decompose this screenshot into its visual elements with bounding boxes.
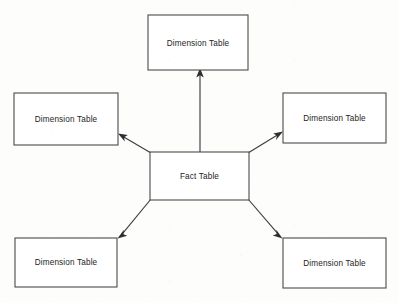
edge-fact-to-dimension-bottom-right <box>248 199 283 239</box>
edge-line-left <box>123 136 152 153</box>
node-fact-center[interactable]: Fact Table <box>150 152 249 200</box>
edge-fact-to-dimension-right <box>248 132 283 154</box>
node-dimension-top[interactable]: Dimension Table <box>148 15 248 70</box>
diagram-svg-surface: Dimension Table Dimension Table Dimensio… <box>0 0 398 303</box>
node-dimension-bottom-left[interactable]: Dimension Table <box>15 238 117 287</box>
node-dimension-bottom-right[interactable]: Dimension Table <box>283 238 386 288</box>
edge-fact-to-dimension-bottom-left <box>118 199 152 239</box>
dimension-left-label: Dimension Table <box>35 115 98 124</box>
node-dimension-left[interactable]: Dimension Table <box>14 93 118 145</box>
dimension-bottom-left-label: Dimension Table <box>35 258 98 267</box>
node-dimension-right[interactable]: Dimension Table <box>283 93 386 143</box>
dimension-top-label: Dimension Table <box>167 39 230 48</box>
edge-fact-to-dimension-left <box>118 134 151 154</box>
star-schema-diagram: Dimension Table Dimension Table Dimensio… <box>0 0 398 303</box>
fact-table-label: Fact Table <box>180 172 219 181</box>
arrowhead-down-right-icon <box>273 230 283 239</box>
arrowhead-up-left-icon <box>118 134 128 142</box>
arrowhead-down-left-icon <box>118 230 128 239</box>
arrowhead-up-right-icon <box>273 132 283 140</box>
edge-fact-to-dimension-top <box>196 68 204 152</box>
dimension-bottom-right-label: Dimension Table <box>303 259 366 268</box>
edge-line-bottom-left <box>122 199 151 234</box>
dimension-right-label: Dimension Table <box>303 114 366 123</box>
edge-line-right <box>248 134 278 153</box>
edge-line-bottom-right <box>248 199 278 234</box>
